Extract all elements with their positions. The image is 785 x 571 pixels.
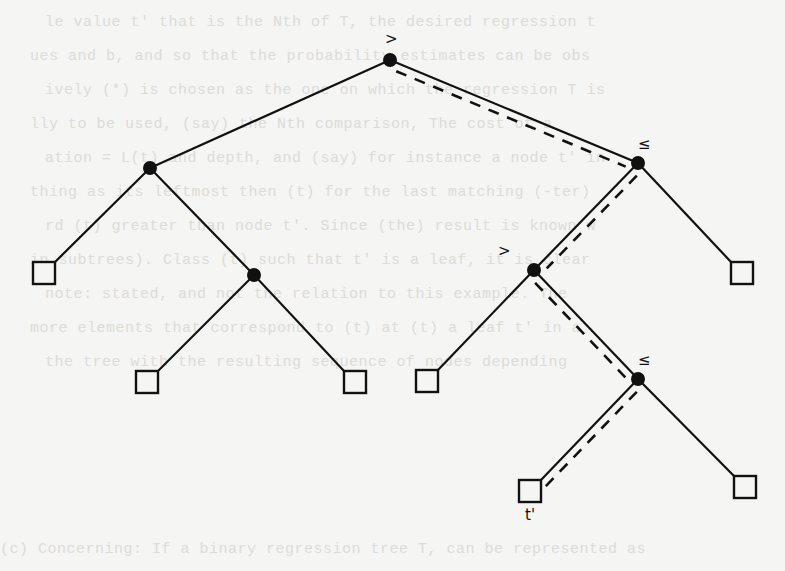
tree-edge-RL-RLR — [534, 270, 638, 379]
node-labels: >≤>≤t' — [385, 30, 651, 524]
internal-node-R — [631, 156, 645, 170]
tree-edge-RLR-RLRR — [638, 379, 734, 476]
tree-edge-root-R — [390, 60, 638, 163]
figure-page: le value t' that is the Nth of T, the de… — [0, 0, 785, 571]
leaf-node-RLL — [416, 370, 438, 392]
leaf-node-RLRL — [519, 480, 541, 502]
node-label-R: ≤ — [638, 135, 651, 153]
tree-edge-root-L — [150, 60, 390, 168]
binary-regression-tree-diagram: >≤>≤t' — [0, 0, 785, 571]
leaf-node-LL — [33, 262, 55, 284]
leaf-node-RLRR — [734, 476, 756, 498]
internal-node-RLR — [631, 372, 645, 386]
tree-edge-LR-LRL — [158, 275, 254, 371]
tree-edge-LR-LRR — [254, 275, 344, 371]
internal-node-RL — [527, 263, 541, 277]
dashed-path-segment — [540, 392, 637, 492]
node-label-RL: > — [498, 242, 511, 260]
leaf-node-LRR — [344, 371, 366, 393]
dashed-path-segment — [535, 283, 625, 378]
tree-edge-R-RR — [638, 163, 731, 262]
leaf-node-LRL — [136, 371, 158, 393]
tree-edges — [55, 60, 734, 480]
tree-edge-RLR-RLRL — [541, 379, 638, 480]
tree-edge-L-LL — [55, 168, 150, 262]
leaf-node-RR — [731, 262, 753, 284]
node-label-root: > — [385, 30, 398, 48]
search-path-dashed — [396, 71, 637, 492]
tree-edge-R-RL — [534, 163, 638, 270]
node-label-RLRL: t' — [525, 506, 535, 524]
internal-node-root — [383, 53, 397, 67]
node-label-RLR: ≤ — [638, 351, 651, 369]
dashed-path-segment — [396, 71, 626, 166]
tree-edge-L-LR — [150, 168, 254, 275]
internal-node-LR — [247, 268, 261, 282]
dashed-path-segment — [547, 176, 637, 269]
tree-nodes — [33, 53, 756, 502]
internal-node-L — [143, 161, 157, 175]
tree-edge-RL-RLL — [438, 270, 534, 370]
